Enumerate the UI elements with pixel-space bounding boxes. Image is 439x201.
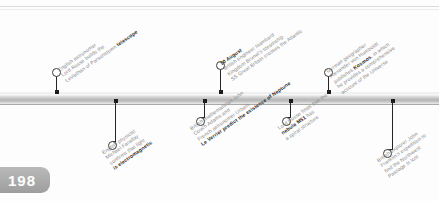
leader-line — [392, 101, 393, 149]
page-top-rule-1 — [0, 6, 439, 7]
event-label: Lord Rosse finds that the nebula M51 has… — [276, 126, 287, 142]
event-label: British mathematician John Couch Adams a… — [189, 126, 204, 147]
timeline-bar-gloss — [0, 94, 439, 97]
event-label: English astronomer Lord Rosse builds the… — [56, 18, 138, 84]
event-label: German geographer Alexander von Humboldt… — [325, 29, 400, 95]
event-label: English physicist Michael Faraday confir… — [101, 150, 116, 171]
page-number: 198 — [8, 172, 36, 189]
event-label-line: a spiral structure — [284, 136, 288, 141]
event-label: 10 August British engineer Isambard King… — [219, 12, 304, 82]
event-label-line: Lord Rosse builds the — [60, 23, 135, 78]
timeline-page: English astronomer Lord Rosse builds the… — [0, 0, 439, 201]
page-number-badge: 198 — [0, 167, 50, 193]
event-label-line: Passage is lost — [387, 174, 391, 179]
leader-line — [115, 101, 116, 141]
page-top-rule-2 — [0, 9, 439, 10]
event-label: British explorer John Franklin's expedit… — [376, 158, 391, 179]
